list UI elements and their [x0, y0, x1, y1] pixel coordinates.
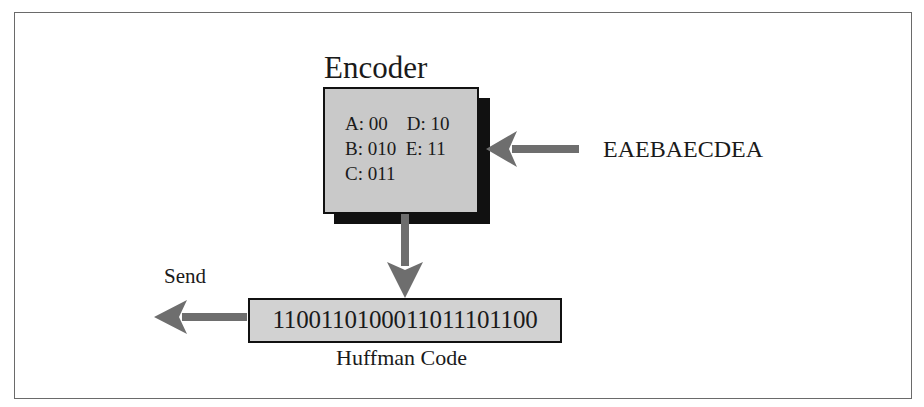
huffman-code-caption: Huffman Code — [336, 345, 467, 371]
input-arrow-icon — [486, 131, 579, 167]
input-string: EAEBAECDEA — [603, 135, 763, 163]
send-label: Send — [164, 263, 206, 289]
send-arrow-icon — [154, 300, 247, 334]
down-arrow-icon — [387, 214, 423, 298]
huffman-code-box: 1100110100011011101100 — [248, 298, 562, 343]
